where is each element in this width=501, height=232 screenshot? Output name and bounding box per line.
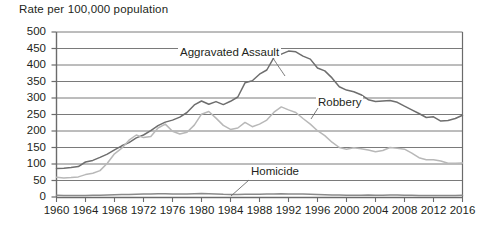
chart-container: Rate per 100,000 population 050100150200… xyxy=(0,0,501,232)
y-tick-label: 300 xyxy=(12,92,46,104)
series-line-homicide xyxy=(57,194,463,196)
y-tick-label: 100 xyxy=(12,158,46,170)
y-tick-label: 0 xyxy=(12,191,46,203)
series-label-homicide: Homicide xyxy=(249,165,301,177)
y-tick-label: 450 xyxy=(12,43,46,55)
chart-plot-area xyxy=(0,0,501,232)
leader-robbery xyxy=(311,108,318,119)
y-tick-label: 150 xyxy=(12,142,46,154)
y-tick-label: 200 xyxy=(12,125,46,137)
y-tick-label: 400 xyxy=(12,59,46,71)
series-label-robbery: Robbery xyxy=(316,96,363,108)
leader-aggravated-assault xyxy=(273,58,285,76)
x-tick-label: 2016 xyxy=(441,205,485,217)
y-tick-label: 50 xyxy=(12,175,46,187)
y-tick-label: 500 xyxy=(12,26,46,38)
y-tick-label: 250 xyxy=(12,109,46,121)
series-label-aggravated-assault: Aggravated Assault xyxy=(178,46,281,58)
y-tick-label: 350 xyxy=(12,76,46,88)
